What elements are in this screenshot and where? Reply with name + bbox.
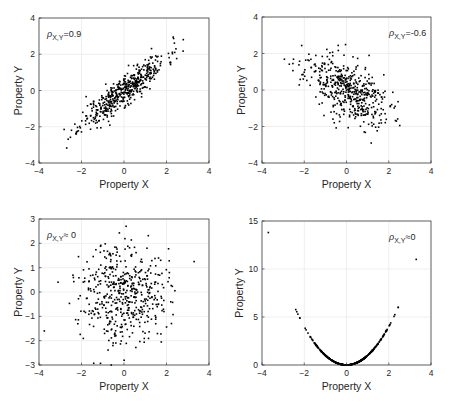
x-tick-label: 2 [164,368,169,378]
y-axis-label: Property Y [235,65,247,114]
x-tick-label: −2 [299,166,309,176]
x-axis-label: Property X [99,178,149,190]
y-tick-label: 0 [30,86,35,96]
x-tick-label: 0 [122,166,127,176]
y-tick-label: 2 [30,238,35,248]
x-tick-label: 2 [386,368,391,378]
x-tick-label: 4 [207,368,212,378]
y-tick-label: 1 [30,263,35,273]
y-tick-label: 5 [253,312,258,322]
subplot-top-left: −4−2024−4−2024Property XProperty YρX,Y=0… [12,13,212,190]
y-tick-label: 15 [249,216,259,226]
y-tick-label: −2 [25,336,35,346]
y-tick-label: −1 [25,311,35,321]
y-tick-label: 4 [30,13,35,23]
figure-canvas: −4−2024−4−2024Property XProperty YρX,Y=0… [0,0,450,405]
y-tick-label: 2 [253,49,258,59]
subplot-bottom-left: −4−2024−3−2−10123Property XProperty YρX,… [12,214,212,392]
y-tick-label: −4 [248,158,258,168]
y-tick-label: 2 [30,49,35,59]
x-tick-label: 0 [344,166,349,176]
x-tick-label: 4 [429,166,434,176]
y-tick-label: −3 [25,360,35,370]
y-tick-label: −4 [25,158,35,168]
x-tick-label: −2 [299,368,309,378]
y-tick-label: 0 [253,360,258,370]
y-tick-label: 0 [30,287,35,297]
x-tick-label: 2 [164,166,169,176]
y-axis-label: Property Y [233,268,245,317]
subplot-top-right: −4−2024−4−2024Property XProperty YρX,Y=-… [235,12,434,190]
x-axis-label: Property X [99,380,149,392]
correlation-annotation: ρX,Y=0.9 [46,29,81,41]
y-tick-label: 0 [253,85,258,95]
y-axis-label: Property Y [12,267,24,316]
x-tick-label: −4 [34,368,44,378]
x-tick-label: 4 [207,166,212,176]
x-tick-label: 0 [122,368,127,378]
x-tick-label: −2 [77,166,87,176]
y-tick-label: 4 [253,12,258,22]
y-tick-label: 3 [30,214,35,224]
y-axis-label: Property Y [12,66,24,115]
x-tick-label: −4 [257,368,267,378]
y-tick-label: −2 [248,122,258,132]
y-tick-label: 10 [249,264,259,274]
x-axis-label: Property X [322,380,372,392]
x-tick-label: −4 [34,166,44,176]
x-axis-label: Property X [322,178,372,190]
x-tick-label: 2 [386,166,391,176]
x-tick-label: 4 [429,368,434,378]
x-tick-label: 0 [344,368,349,378]
x-tick-label: −4 [257,166,267,176]
subplot-bottom-right: −4−2024051015Property XProperty YρX,Y≈0 [233,216,434,392]
y-tick-label: −2 [25,122,35,132]
x-tick-label: −2 [77,368,87,378]
correlation-annotation: ρX,Y=-0.6 [388,28,426,40]
